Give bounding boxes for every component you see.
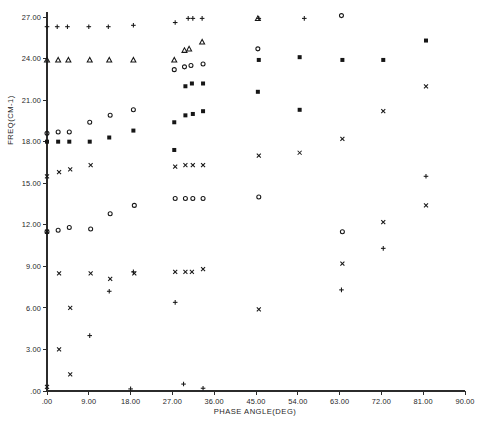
- marker-triangle: [107, 57, 112, 62]
- marker-square: [298, 55, 302, 59]
- marker-plus: [201, 386, 206, 391]
- marker-ex: [68, 372, 72, 376]
- x-tick-label: 18.00: [121, 397, 140, 406]
- marker-plus: [339, 288, 344, 293]
- marker-plus: [302, 16, 307, 21]
- x-tick-label: 63.00: [330, 397, 349, 406]
- axis-layer: [43, 12, 465, 395]
- marker-circle: [172, 68, 176, 72]
- marker-circle: [131, 108, 135, 112]
- marker-circle: [67, 226, 71, 230]
- x-tick-label: 72.00: [372, 397, 391, 406]
- marker-plus: [381, 246, 386, 251]
- y-tick-label: 3.00: [26, 345, 41, 354]
- x-tick-label: 27.00: [163, 397, 182, 406]
- marker-ex: [57, 347, 61, 351]
- marker-circle: [201, 62, 205, 66]
- marker-circle: [340, 230, 344, 234]
- x-tick-label: 45.00: [246, 397, 265, 406]
- marker-circle: [88, 120, 92, 124]
- marker-plus: [173, 300, 178, 305]
- marker-square: [56, 140, 60, 144]
- marker-triangle: [200, 39, 205, 44]
- marker-triangle: [131, 57, 136, 62]
- marker-ex: [340, 137, 344, 141]
- marker-ex: [424, 84, 428, 88]
- marker-plus: [45, 24, 50, 29]
- marker-ex: [298, 151, 302, 155]
- marker-square: [107, 136, 111, 140]
- marker-plus: [55, 24, 60, 29]
- x-tick-label: 81.00: [414, 397, 433, 406]
- marker-square: [201, 81, 205, 85]
- marker-ex: [57, 271, 61, 275]
- marker-plus: [186, 16, 191, 21]
- marker-square: [183, 113, 187, 117]
- marker-ex: [190, 270, 194, 274]
- marker-plus: [87, 24, 92, 29]
- marker-ex: [381, 109, 385, 113]
- marker-square: [183, 84, 187, 88]
- marker-square: [257, 58, 261, 62]
- marker-circle: [108, 212, 112, 216]
- y-tick-label: 21.00: [22, 96, 41, 105]
- marker-ex: [68, 306, 72, 310]
- x-tick-label: 36.00: [205, 397, 224, 406]
- marker-square: [381, 58, 385, 62]
- marker-plus: [424, 174, 429, 179]
- marker-plus: [131, 23, 136, 28]
- marker-square: [190, 81, 194, 85]
- marker-plus: [191, 16, 196, 21]
- marker-ex: [191, 163, 195, 167]
- marker-ex: [424, 203, 428, 207]
- marker-triangle: [66, 57, 71, 62]
- marker-circle: [132, 203, 136, 207]
- marker-circle: [89, 227, 93, 231]
- marker-triangle: [87, 57, 92, 62]
- marker-square: [45, 140, 49, 144]
- marker-square: [256, 90, 260, 94]
- marker-square: [67, 140, 71, 144]
- marker-square: [298, 108, 302, 112]
- marker-ex: [257, 307, 261, 311]
- marker-ex: [89, 271, 93, 275]
- series-branch-1: [45, 16, 429, 391]
- marker-circle: [257, 195, 261, 199]
- marker-plus: [65, 24, 70, 29]
- marker-plus: [106, 24, 111, 29]
- marker-square: [131, 129, 135, 133]
- marker-circle: [189, 63, 193, 67]
- marker-circle: [201, 196, 205, 200]
- x-tick-label: 9.00: [81, 397, 96, 406]
- marker-ex: [108, 277, 112, 281]
- marker-ex: [89, 163, 93, 167]
- marker-circle: [339, 14, 343, 18]
- y-axis-title: FREQ(CM-1): [6, 95, 15, 145]
- y-tick-label: 27.00: [22, 13, 41, 22]
- x-tick-label: 90.00: [455, 397, 474, 406]
- scatter-plot-figure: .009.0018.0027.0036.0045.0054.0063.0072.…: [0, 0, 478, 428]
- marker-circle: [256, 47, 260, 51]
- marker-circle: [191, 196, 195, 200]
- marker-plus: [200, 16, 205, 21]
- data-marker-layer: [45, 14, 429, 392]
- marker-circle: [56, 130, 60, 134]
- marker-circle: [173, 196, 177, 200]
- y-tick-label: 9.00: [26, 262, 41, 271]
- marker-square: [201, 109, 205, 113]
- marker-ex: [57, 170, 61, 174]
- marker-circle: [108, 113, 112, 117]
- marker-ex: [340, 262, 344, 266]
- marker-ex: [68, 167, 72, 171]
- y-tick-label: 24.00: [22, 54, 41, 63]
- marker-triangle: [187, 46, 192, 51]
- y-tick-label: 6.00: [26, 304, 41, 313]
- marker-ex: [183, 163, 187, 167]
- marker-square: [172, 148, 176, 152]
- y-tick-label: 12.00: [22, 220, 41, 229]
- marker-plus: [107, 289, 112, 294]
- marker-triangle: [172, 57, 177, 62]
- marker-ex: [173, 270, 177, 274]
- series-branch-4: [45, 39, 428, 152]
- marker-plus: [87, 333, 92, 338]
